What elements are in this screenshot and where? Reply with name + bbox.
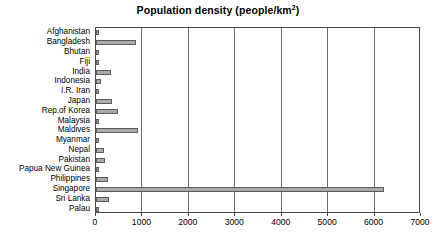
- y-label-afghanistan: Afghanistan: [0, 27, 92, 36]
- x-tick-label-2000: 2000: [178, 217, 197, 227]
- plot-area: [95, 27, 420, 213]
- bar-singapore: [96, 187, 384, 192]
- x-tick-label-6000: 6000: [364, 217, 383, 227]
- chart-title-suffix: ): [296, 4, 300, 16]
- bar-i-r-iran: [96, 89, 99, 94]
- bar-bhutan: [96, 50, 99, 55]
- y-label-palau: Palau: [0, 204, 92, 213]
- bar-japan: [96, 99, 112, 104]
- bar-fiji: [96, 60, 99, 65]
- y-label-fiji: Fiji: [0, 57, 92, 66]
- x-tick-mark-3000: [234, 213, 235, 216]
- bar-indonesia: [96, 79, 101, 84]
- bar-sri-lanka: [96, 197, 109, 202]
- x-tick-label-1000: 1000: [132, 217, 151, 227]
- x-tick-mark-1000: [141, 213, 142, 216]
- x-tick-mark-2000: [188, 213, 189, 216]
- y-label-india: India: [0, 67, 92, 76]
- bar-maldives: [96, 128, 138, 133]
- y-label-malaysia: Malaysia: [0, 116, 92, 125]
- bar-myanmar: [96, 138, 99, 143]
- y-label-myanmar: Myanmar: [0, 135, 92, 144]
- x-tick-label-7000: 7000: [410, 217, 429, 227]
- y-label-indonesia: Indonesia: [0, 76, 92, 85]
- y-label-i-r-iran: I.R. Iran: [0, 86, 92, 95]
- bar-papua-new-guinea: [96, 167, 99, 172]
- y-label-pakistan: Pakistan: [0, 155, 92, 164]
- x-tick-mark-4000: [281, 213, 282, 216]
- y-label-singapore: Singapore: [0, 184, 92, 193]
- y-axis-category-labels: AfghanistanBangladeshBhutanFijiIndiaIndo…: [0, 27, 92, 213]
- y-label-sri-lanka: Sri Lanka: [0, 194, 92, 203]
- x-tick-label-5000: 5000: [318, 217, 337, 227]
- bar-rep-of-korea: [96, 109, 118, 114]
- bar-philippines: [96, 177, 108, 182]
- x-tick-label-3000: 3000: [225, 217, 244, 227]
- bar-pakistan: [96, 158, 105, 163]
- y-label-bangladesh: Bangladesh: [0, 37, 92, 46]
- x-tick-label-0: 0: [93, 217, 98, 227]
- chart-title: Population density (people/km2): [0, 4, 436, 16]
- y-label-japan: Japan: [0, 96, 92, 105]
- x-axis-ticks: 01000200030004000500060007000: [0, 213, 436, 233]
- chart-title-text: Population density (people/km: [137, 4, 292, 16]
- bar-india: [96, 70, 111, 75]
- x-tick-mark-6000: [374, 213, 375, 216]
- bar-nepal: [96, 148, 104, 153]
- y-label-philippines: Philippines: [0, 174, 92, 183]
- x-tick-mark-0: [95, 213, 96, 216]
- x-tick-mark-5000: [327, 213, 328, 216]
- bars-layer: [96, 28, 419, 212]
- bar-bangladesh: [96, 40, 136, 45]
- y-label-nepal: Nepal: [0, 145, 92, 154]
- bar-palau: [96, 207, 99, 212]
- bar-afghanistan: [96, 30, 99, 35]
- population-density-bar-chart: Population density (people/km2) Afghanis…: [0, 0, 436, 239]
- y-label-rep-of-korea: Rep.of Korea: [0, 106, 92, 115]
- y-label-papua-new-guinea: Papua New Guinea: [0, 164, 92, 173]
- y-label-maldives: Maldives: [0, 125, 92, 134]
- x-tick-mark-7000: [420, 213, 421, 216]
- x-tick-label-4000: 4000: [271, 217, 290, 227]
- bar-malaysia: [96, 119, 99, 124]
- y-label-bhutan: Bhutan: [0, 47, 92, 56]
